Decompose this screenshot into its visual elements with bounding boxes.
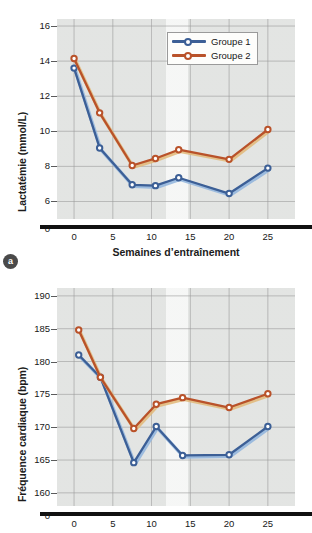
y-tick-mark xyxy=(51,427,57,428)
y-tick-mark xyxy=(51,201,57,202)
figure-container: Lactatémie (mmol/L) 16141210860 05101520… xyxy=(0,0,312,533)
legend-swatch-icon-1 xyxy=(172,37,206,46)
y-tick-mark xyxy=(51,166,57,167)
y-tick-mark xyxy=(51,329,57,330)
y-tick-label: 16 xyxy=(14,20,50,31)
y-tick-label: 6 xyxy=(14,195,50,206)
y-tick-label: 165 xyxy=(14,454,50,465)
x-tick-label: 5 xyxy=(99,518,127,529)
y-tick-mark xyxy=(51,131,57,132)
legend-item-groupe-2: Groupe 2 xyxy=(172,50,251,61)
y-tick-label: 190 xyxy=(14,290,50,301)
x-tick-label: 0 xyxy=(60,518,88,529)
y-tick-mark xyxy=(51,362,57,363)
y-tick-mark xyxy=(51,296,57,297)
x-axis-bar-a xyxy=(40,225,312,229)
y-tick-mark xyxy=(51,26,57,27)
y-axis-label-b: Fréquence cardiaque (bpm) xyxy=(16,367,28,502)
y-tick-mark xyxy=(51,394,57,395)
y-tick-mark xyxy=(51,460,57,461)
panel-badge-a: a xyxy=(3,254,18,269)
y-tick-label-zero: 0 xyxy=(14,510,50,521)
y-tick-label-zero: 0 xyxy=(14,223,50,234)
y-tick-mark xyxy=(51,493,57,494)
legend-item-groupe-1: Groupe 1 xyxy=(172,36,251,47)
y-tick-label: 12 xyxy=(14,90,50,101)
chart-panel-heartrate: Fréquence cardiaque (bpm) 19018518017517… xyxy=(0,270,312,533)
x-tick-label: 10 xyxy=(138,518,166,529)
y-tick-label: 170 xyxy=(14,421,50,432)
x-tick-label: 0 xyxy=(60,231,88,242)
y-tick-label: 10 xyxy=(14,125,50,136)
y-tick-label: 180 xyxy=(14,356,50,367)
legend-label-groupe-2: Groupe 2 xyxy=(211,50,251,61)
x-axis-bar-b xyxy=(40,512,312,516)
x-tick-label: 25 xyxy=(254,518,282,529)
x-tick-label: 10 xyxy=(138,231,166,242)
x-tick-label: 25 xyxy=(254,231,282,242)
legend-swatch-icon-2 xyxy=(172,51,206,60)
y-tick-mark xyxy=(51,61,57,62)
legend-label-groupe-1: Groupe 1 xyxy=(211,36,251,47)
x-tick-label: 5 xyxy=(99,231,127,242)
y-tick-label: 14 xyxy=(14,55,50,66)
x-tick-label: 15 xyxy=(176,231,204,242)
x-tick-label: 15 xyxy=(176,518,204,529)
y-tick-label: 175 xyxy=(14,388,50,399)
y-tick-label: 160 xyxy=(14,487,50,498)
y-tick-label: 8 xyxy=(14,160,50,171)
plot-svg-b xyxy=(57,288,295,506)
y-tick-mark xyxy=(51,96,57,97)
x-tick-label: 20 xyxy=(215,518,243,529)
x-axis-label-a: Semaines d’entraînement xyxy=(57,246,295,258)
x-tick-label: 20 xyxy=(215,231,243,242)
chart-panel-lactate: Lactatémie (mmol/L) 16141210860 05101520… xyxy=(0,0,312,262)
plot-area-b xyxy=(57,288,295,506)
y-tick-label: 185 xyxy=(14,323,50,334)
legend: Groupe 1 Groupe 2 xyxy=(167,32,258,65)
